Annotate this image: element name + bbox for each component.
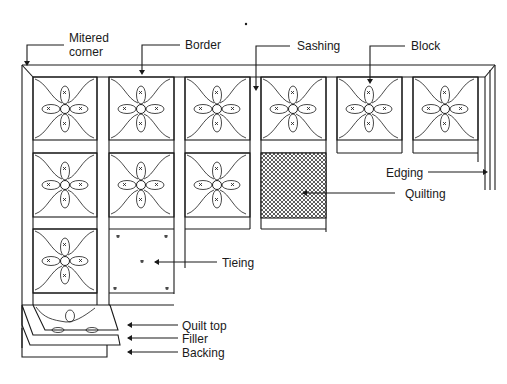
tied-block [109,235,174,305]
row-3-blocks [33,229,174,305]
label-mitered-corner-line1: Mitered [69,31,109,44]
label-filler: Filler [182,332,208,345]
label-edging: Edging [386,166,423,179]
label-backing: Backing [182,346,225,359]
label-block: Block [411,39,440,52]
mitered-corner-left [22,65,33,77]
label-quilting: Quilting [405,187,446,200]
stray-mark [245,23,247,25]
label-mitered-corner-line2: corner [69,45,103,58]
label-border: Border [185,38,221,51]
quilt-layers [22,305,120,357]
row-2-blocks [33,153,326,229]
label-sashing: Sashing [297,39,340,52]
label-tieing: Tieing [222,256,254,269]
quilted-block [261,153,326,218]
